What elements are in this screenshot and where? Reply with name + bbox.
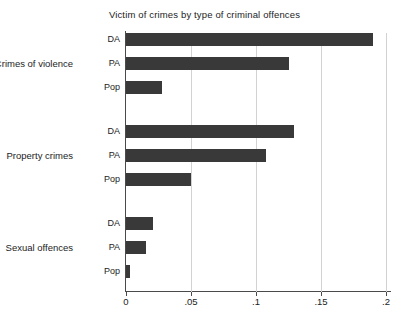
series-label-pop: Pop: [80, 82, 120, 92]
group-label-crimes-of-violence: Crimes of violence: [0, 58, 73, 69]
x-tick-label-.05: .05: [184, 296, 197, 307]
bar-property-crimes-da: [126, 125, 294, 138]
gridline-.1: [256, 33, 257, 292]
x-tick-label-0: 0: [123, 296, 128, 307]
plot-area: [126, 33, 386, 292]
series-label-pa: PA: [80, 242, 120, 252]
x-tick-label-.2: .2: [382, 296, 390, 307]
group-label-sexual-offences: Sexual offences: [0, 242, 73, 253]
gridline-.05: [191, 33, 192, 292]
series-label-da: DA: [80, 126, 120, 136]
series-label-da: DA: [80, 34, 120, 44]
x-tick-label-.1: .1: [252, 296, 260, 307]
series-label-pa: PA: [80, 150, 120, 160]
bar-crimes-of-violence-pop: [126, 81, 162, 94]
bar-sexual-offences-pa: [126, 241, 146, 254]
series-label-pop: Pop: [80, 174, 120, 184]
bar-crimes-of-violence-da: [126, 33, 373, 46]
series-label-pa: PA: [80, 58, 120, 68]
bar-property-crimes-pop: [126, 173, 191, 186]
gridline-.15: [321, 33, 322, 292]
group-label-property-crimes: Property crimes: [0, 150, 73, 161]
x-tick-label-.15: .15: [314, 296, 327, 307]
bar-sexual-offences-pop: [126, 265, 130, 278]
series-label-pop: Pop: [80, 266, 120, 276]
bar-crimes-of-violence-pa: [126, 57, 289, 70]
bar-property-crimes-pa: [126, 149, 266, 162]
chart-title: Victim of crimes by type of criminal off…: [0, 9, 409, 20]
series-label-da: DA: [80, 218, 120, 228]
bar-chart: Victim of crimes by type of criminal off…: [0, 0, 409, 318]
gridline-.2: [386, 33, 387, 292]
bar-sexual-offences-da: [126, 217, 153, 230]
